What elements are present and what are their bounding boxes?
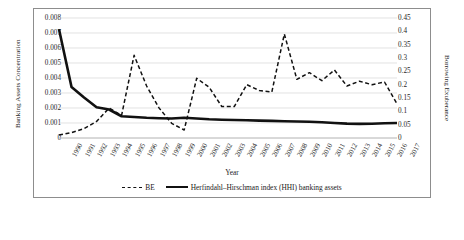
legend-item: Herfindahl–Hirschman index (HHI) banking… bbox=[166, 183, 342, 192]
x-axis-title: Year bbox=[0, 168, 464, 177]
chart-legend: BEHerfindahl–Hirschman index (HHI) banki… bbox=[0, 180, 464, 194]
legend-label: BE bbox=[145, 183, 154, 192]
legend-label: Herfindahl–Hirschman index (HHI) banking… bbox=[191, 183, 342, 192]
legend-dashed-swatch-icon bbox=[122, 187, 142, 188]
series-line bbox=[59, 29, 397, 124]
legend-item: BE bbox=[122, 183, 154, 192]
legend-solid-swatch-icon bbox=[166, 186, 188, 188]
